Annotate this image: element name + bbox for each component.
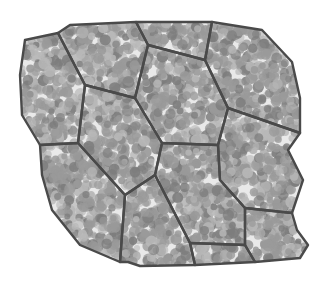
cell-tissue-illustration [0, 0, 325, 282]
